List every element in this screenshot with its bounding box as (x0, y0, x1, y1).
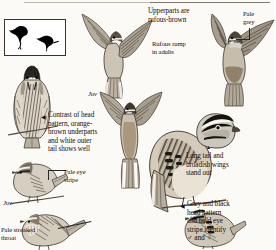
arrow-left-head-pattern: ◀ (180, 203, 185, 209)
caption-grey-black-head-sexes: ♂ and ♀ (187, 234, 271, 243)
label-juv-lower: Juv (3, 199, 12, 207)
caption-long-tail: Long tail and broadish wings stand out (186, 152, 264, 178)
silhouette-pair-icon (5, 20, 65, 55)
top-rule-dark (150, 2, 270, 3)
label-juv-upper: Juv (88, 90, 97, 98)
bird-flight-juvenile-upper (68, 12, 152, 98)
arrow-up-long-tail: ▲ (206, 145, 211, 151)
caption-rufous-rump: Rufous rump in adults (152, 40, 212, 56)
caption-upperparts: Upperparts are rufous-brown (148, 7, 214, 24)
leader-pale-grey-horizontal (236, 39, 250, 40)
arrow-left-contrast: ◀ (41, 114, 46, 120)
caption-contrast-head: Contrast of head pattern, orange- brown … (48, 111, 128, 154)
bird-flight-upperparts (196, 14, 276, 106)
caption-pale-streaked-throat: Pale streaked throat (1, 226, 53, 242)
caption-pale-eye-stripe: Pale eye stripe (64, 168, 100, 184)
silhouette-box (4, 19, 66, 56)
caption-grey-black-head: Grey and black head pattern and bold eye… (187, 200, 271, 234)
caption-pale-grey: Pale grey (243, 10, 273, 26)
leader-eye-stripe-vertical (48, 170, 49, 180)
